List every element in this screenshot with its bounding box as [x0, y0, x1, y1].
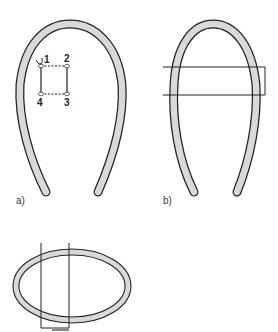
panel-c-ring	[16, 252, 128, 320]
diagram-canvas: 1 2 3 4 a) b)	[0, 0, 278, 332]
panel-a-headband	[20, 24, 122, 192]
panel-b-label: b)	[163, 195, 172, 206]
point-3-label: 3	[64, 97, 70, 108]
point-1-label: 1	[44, 54, 50, 65]
point-4-label: 4	[37, 97, 43, 108]
point-2-label: 2	[64, 53, 70, 64]
stitch-square: 1 2 3 4	[36, 53, 70, 108]
panel-a-label: a)	[16, 195, 25, 206]
panel-b-headband	[174, 24, 257, 192]
